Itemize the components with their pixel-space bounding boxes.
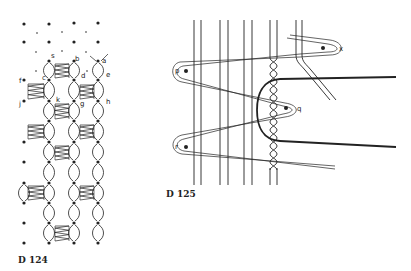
pin	[96, 160, 99, 163]
twist-loop	[99, 103, 104, 119]
twist-loop	[25, 185, 30, 201]
small-dot	[35, 70, 37, 72]
pin	[72, 140, 75, 143]
twist-loop	[99, 205, 104, 221]
twist-loop	[93, 205, 98, 221]
pin	[47, 119, 50, 122]
pin	[184, 145, 188, 149]
figure-d124-drawing	[19, 21, 109, 244]
pin	[96, 119, 99, 122]
point-label-e: e	[106, 71, 110, 79]
cloth-stitch-patch	[55, 104, 69, 119]
twist-loop	[44, 225, 49, 241]
point-label-x: x	[339, 45, 343, 53]
pinhole	[47, 40, 50, 43]
twist-loop	[50, 225, 55, 241]
pinhole	[22, 22, 25, 25]
figure-d125-drawing	[173, 20, 396, 185]
twist-loop	[75, 225, 80, 241]
point-label-d: d	[81, 72, 85, 80]
twist-loop	[75, 164, 80, 181]
twist-loop	[50, 82, 55, 99]
twist-loop	[75, 185, 80, 201]
small-dot	[61, 50, 63, 52]
twist-loop	[75, 144, 80, 160]
point-label-j: j	[18, 100, 21, 108]
point-label-a: a	[102, 57, 106, 65]
twisted-thread	[270, 58, 277, 170]
pin	[321, 46, 325, 50]
point-label-g: g	[80, 100, 84, 108]
twist-loop	[99, 185, 104, 201]
twist-loop	[44, 205, 49, 221]
pin	[22, 78, 25, 81]
point-label-q: q	[297, 105, 301, 113]
twist-loop	[75, 123, 80, 140]
pin	[72, 241, 75, 244]
twist-loop	[50, 123, 55, 140]
twist-loop	[93, 164, 98, 181]
pin	[72, 119, 75, 122]
pin	[72, 201, 75, 204]
pin	[47, 221, 50, 224]
small-dot	[35, 51, 37, 53]
pin	[96, 181, 99, 184]
pin	[47, 99, 50, 102]
pin	[96, 78, 99, 81]
twist-loop	[50, 103, 55, 119]
twisted-thread	[302, 20, 336, 100]
caption-d125: D 125	[166, 189, 196, 199]
twist-loop	[50, 63, 55, 78]
pin	[96, 59, 99, 62]
small-dot	[36, 32, 38, 34]
pin	[72, 99, 75, 102]
cloth-stitch-patch	[55, 226, 69, 241]
twist-loop	[50, 164, 55, 181]
pin	[184, 69, 188, 73]
pinhole	[72, 21, 75, 24]
twist-loop	[99, 123, 104, 140]
pin	[96, 201, 99, 204]
twist-loop	[69, 82, 74, 99]
pin	[22, 160, 25, 163]
twist-loop	[75, 103, 80, 119]
cloth-stitch-patch	[80, 125, 94, 139]
twist-loop	[93, 225, 98, 241]
twist-loop	[93, 144, 98, 160]
twist-loop	[99, 82, 104, 99]
pin	[72, 160, 75, 163]
twist-loop	[69, 164, 74, 181]
cloth-stitch-patch	[28, 125, 44, 139]
cloth-stitch-patch	[80, 186, 94, 200]
pin	[47, 160, 50, 163]
pin	[72, 221, 75, 224]
point-label-r: r	[175, 143, 178, 151]
twist-loop	[44, 103, 49, 119]
pin	[72, 78, 75, 81]
twist-loop	[99, 164, 104, 181]
pinhole	[96, 40, 99, 43]
twist-loop	[75, 82, 80, 99]
twisted-thread	[296, 20, 330, 100]
point-label-h: h	[106, 98, 110, 106]
twist-loop	[93, 103, 98, 119]
pinhole	[96, 21, 99, 24]
cloth-stitch-patch	[55, 146, 69, 160]
twist-loop	[93, 82, 98, 99]
point-label-k: k	[56, 96, 61, 104]
twist-loop	[69, 205, 74, 221]
twist-loop	[44, 164, 49, 181]
cloth-stitch-patch	[55, 64, 69, 78]
point-label-f: f	[19, 77, 22, 85]
pin	[22, 99, 25, 102]
point-label-c: c	[42, 74, 46, 82]
twist-loop	[44, 144, 49, 160]
twist-loop	[99, 225, 104, 241]
pin	[22, 201, 25, 204]
pin	[22, 181, 25, 184]
pinhole	[72, 40, 75, 43]
pin	[47, 140, 50, 143]
pin	[22, 241, 25, 244]
pin	[72, 181, 75, 184]
arrow-line	[90, 56, 96, 61]
